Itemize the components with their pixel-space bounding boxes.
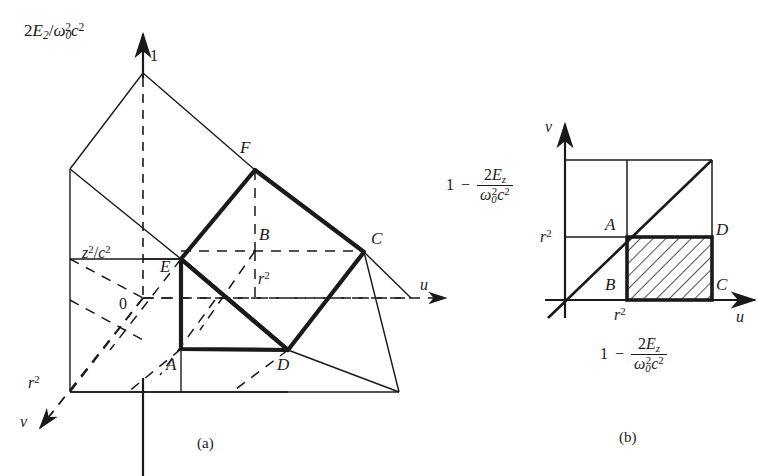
vertex-D-label-a: D	[277, 356, 289, 373]
figure-root: 2E2/ω02c2 1 z2/c2 0 r2 r2 u v A B C D E …	[0, 0, 775, 476]
vertex-D-label-b: D	[716, 221, 728, 238]
vertex-A-label-a: A	[166, 356, 176, 373]
r-squared-v-tick-label-b: r2	[540, 228, 552, 245]
hatched-region	[627, 237, 712, 300]
panel-b-v-axis-expression: 1 − 2Ez ω02c2	[446, 167, 513, 205]
vertex-E-label-a: E	[160, 258, 170, 275]
vertex-B-label-a: B	[259, 226, 269, 243]
caption-b: (b)	[619, 430, 637, 445]
panel-b-u-axis-expression: 1 − 2Ez ω02c2	[600, 336, 667, 374]
v-axis-label-b: v	[545, 119, 552, 135]
v-axis-label-a: v	[20, 414, 27, 430]
vertex-A-label-b: A	[605, 216, 615, 233]
panel-a-dashed-lines	[70, 170, 411, 392]
z-squared-over-c-squared-label: z2/c2	[82, 244, 111, 261]
panel-a-graphics	[0, 0, 775, 476]
u-axis-label-a: u	[420, 277, 428, 293]
r-squared-u-tick-label-b: r2	[614, 306, 626, 323]
panel-a-bold-polygon	[181, 170, 364, 350]
vertex-B-label-b: B	[605, 276, 615, 293]
caption-a: (a)	[197, 436, 214, 451]
vertex-C-label-a: C	[371, 230, 382, 247]
r-squared-interior-label: r2	[258, 270, 270, 287]
panel-a-construction-lines	[70, 73, 411, 392]
r-squared-v-axis-label: r2	[28, 374, 40, 391]
vertex-F-label-a: F	[240, 139, 250, 156]
z-energy-axis-label: 2E2/ω02c2	[24, 22, 84, 42]
origin-label-a: 0	[119, 296, 127, 312]
z-axis-tick-one: 1	[150, 48, 158, 64]
u-axis-label-b: u	[736, 309, 744, 325]
vertex-C-label-b: C	[716, 276, 727, 293]
